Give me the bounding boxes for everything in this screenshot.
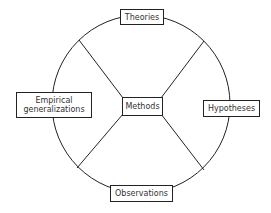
node-empirical-label-line2: generalizations [23, 105, 84, 114]
node-empirical-label-line1: Empirical [35, 96, 72, 105]
node-theories: Theories [120, 9, 164, 25]
spoke-upper-right [161, 41, 204, 98]
node-theories-label: Theories [125, 13, 159, 22]
node-observations-label: Observations [115, 189, 168, 198]
node-observations: Observations [110, 185, 173, 202]
spoke-lower-left [77, 114, 123, 168]
node-empirical-generalizations: Empirical generalizations [16, 92, 92, 118]
spoke-upper-left [79, 40, 123, 98]
spoke-lower-right [161, 114, 204, 170]
node-methods-label: Methods [125, 102, 159, 111]
node-hypotheses-label: Hypotheses [208, 104, 255, 113]
node-hypotheses: Hypotheses [203, 100, 260, 117]
node-methods: Methods [122, 97, 163, 116]
